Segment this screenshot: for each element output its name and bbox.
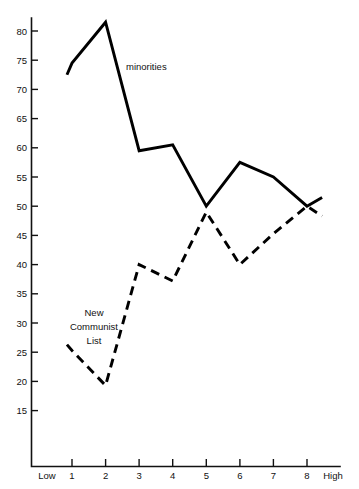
x-tick-label-5: 5 [204,470,209,481]
y-tick-label-30: 30 [16,318,27,329]
x-axis-high-label: High [323,470,343,481]
y-axis-ticks [32,31,39,411]
x-tick-label-7: 7 [271,470,276,481]
y-tick-label-25: 25 [16,347,27,358]
x-tick-label-1: 1 [69,470,74,481]
y-tick-label-60: 60 [16,142,27,153]
chart-container: 80 75 70 65 60 55 50 45 40 35 30 25 20 1… [0,0,359,489]
x-axis-low-label: Low [38,470,56,481]
line-chart: 80 75 70 65 60 55 50 45 40 35 30 25 20 1… [0,0,359,489]
x-axis-labels: 1 2 3 4 5 6 7 8 Low High [38,470,342,481]
y-tick-label-50: 50 [16,201,27,212]
y-tick-label-20: 20 [16,376,27,387]
y-tick-label-55: 55 [16,172,27,183]
y-tick-label-45: 45 [16,230,27,241]
series-label-ncl-line3: List [87,335,102,346]
y-tick-label-15: 15 [16,405,27,416]
y-tick-label-75: 75 [16,55,27,66]
series-line-new-communist-list [67,206,322,385]
y-axis-labels: 80 75 70 65 60 55 50 45 40 35 30 25 20 1… [16,26,27,417]
y-tick-label-65: 65 [16,113,27,124]
axis-lines [32,18,341,467]
series-annotations: minorities New Communist List [70,61,167,346]
series-line-minorities [67,22,322,206]
y-tick-label-70: 70 [16,84,27,95]
x-tick-label-2: 2 [103,470,108,481]
series-label-minorities: minorities [126,61,167,72]
y-tick-label-80: 80 [16,26,27,37]
axes [32,18,341,467]
series-label-ncl-line2: Communist [70,321,118,332]
x-tick-label-3: 3 [136,470,141,481]
x-tick-label-6: 6 [237,470,242,481]
x-axis-ticks [72,459,307,467]
x-tick-label-4: 4 [170,470,175,481]
y-tick-label-35: 35 [16,288,27,299]
x-tick-label-8: 8 [304,470,309,481]
y-tick-label-40: 40 [16,259,27,270]
series-label-ncl-line1: New [84,307,103,318]
